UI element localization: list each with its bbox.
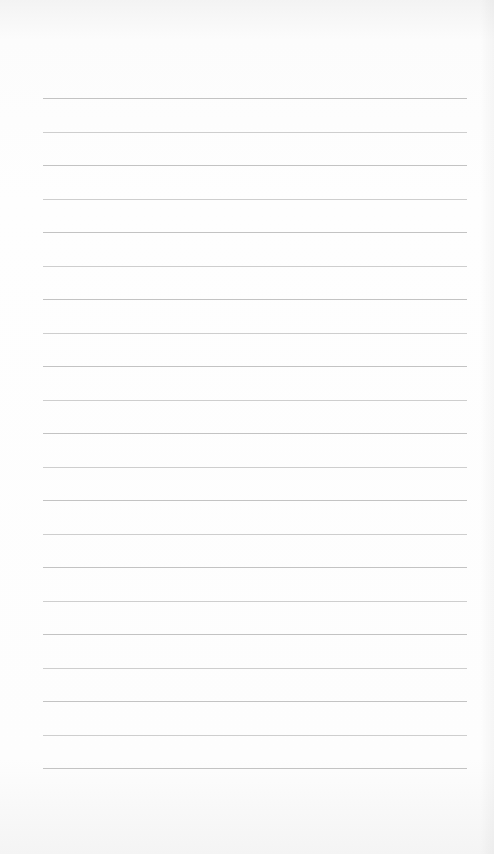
ruled-line — [43, 634, 467, 635]
ruled-line — [43, 299, 467, 300]
ruled-line — [43, 500, 467, 501]
ruled-line — [43, 199, 467, 200]
ruled-line — [43, 433, 467, 434]
ruled-line — [43, 333, 467, 334]
ruled-line — [43, 467, 467, 468]
ruled-line — [43, 266, 467, 267]
ruled-line — [43, 701, 467, 702]
ruled-line — [43, 567, 467, 568]
ruled-line — [43, 165, 467, 166]
ruled-line — [43, 534, 467, 535]
ruled-line — [43, 601, 467, 602]
page-edge-shadow — [480, 0, 494, 854]
ruled-line — [43, 768, 467, 769]
ruled-line — [43, 232, 467, 233]
ruled-line — [43, 98, 467, 99]
ruled-line — [43, 132, 467, 133]
ruled-line — [43, 668, 467, 669]
ruled-line — [43, 400, 467, 401]
ruled-line — [43, 366, 467, 367]
notepad-page — [0, 0, 494, 854]
ruled-line — [43, 735, 467, 736]
